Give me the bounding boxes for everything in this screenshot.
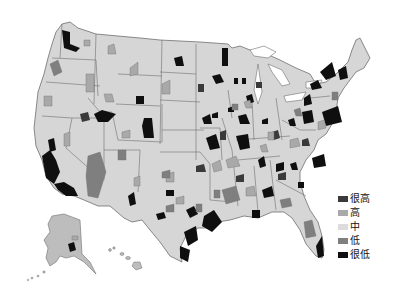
legend-swatch-high — [338, 210, 348, 216]
legend-item-medium: 中 — [338, 220, 370, 233]
legend-label: 高 — [350, 207, 360, 219]
legend-item-low: 低 — [338, 234, 370, 247]
legend-label: 很高 — [350, 193, 370, 205]
legend-swatch-very-low — [338, 252, 348, 258]
legend-item-very-high: 很高 — [338, 192, 370, 205]
legend-label: 低 — [350, 235, 360, 247]
alaska-region-high — [72, 236, 78, 240]
legend-item-very-low: 很低 — [338, 248, 370, 261]
us-choropleth-map: 很高 高 中 低 很低 — [0, 0, 398, 297]
legend-label: 很低 — [350, 249, 370, 261]
legend-swatch-medium — [338, 224, 348, 230]
legend: 很高 高 中 低 很低 — [338, 192, 370, 262]
hawaii-inset — [109, 247, 142, 270]
legend-label: 中 — [350, 221, 360, 233]
legend-swatch-very-high — [338, 196, 348, 202]
legend-item-high: 高 — [338, 206, 370, 219]
legend-swatch-low — [338, 238, 348, 244]
aleutian-islands — [27, 271, 45, 281]
